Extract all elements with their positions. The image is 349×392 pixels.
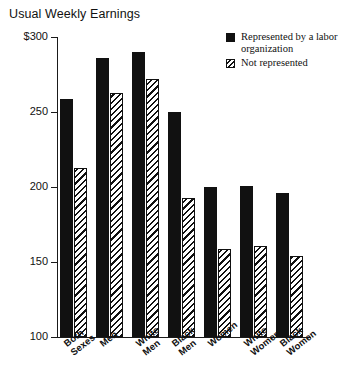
legend-item-label: Represented by a labor organization xyxy=(241,31,346,54)
y-axis-tick-label: $300 xyxy=(2,31,48,42)
hatched-square-icon xyxy=(226,59,235,68)
legend-item: Represented by a labor organization xyxy=(226,31,346,54)
y-axis-tick-label: 250 xyxy=(2,106,48,117)
chart-legend: Represented by a labor organization Not … xyxy=(226,31,346,72)
bar xyxy=(182,198,195,338)
y-axis-tick-label: 200 xyxy=(2,181,48,192)
chart-title: Usual Weekly Earnings xyxy=(9,7,140,21)
bar xyxy=(276,193,289,337)
y-axis-tick xyxy=(51,337,58,338)
y-axis-tick-label: 150 xyxy=(2,256,48,267)
bar xyxy=(60,99,73,338)
solid-square-icon xyxy=(226,33,235,42)
legend-item: Not represented xyxy=(226,57,346,69)
plot-area xyxy=(57,37,310,337)
y-axis-tick-label: 100 xyxy=(2,331,48,342)
bar xyxy=(96,58,109,337)
bar xyxy=(240,186,253,338)
legend-item-label: Not represented xyxy=(241,57,308,69)
bar xyxy=(168,112,181,337)
bar xyxy=(204,187,217,337)
bar xyxy=(110,93,123,338)
bar xyxy=(132,52,145,337)
bar xyxy=(146,79,159,337)
bar xyxy=(74,168,87,338)
bar-chart: Usual Weekly Earnings 100150200250$300 B… xyxy=(0,0,349,392)
